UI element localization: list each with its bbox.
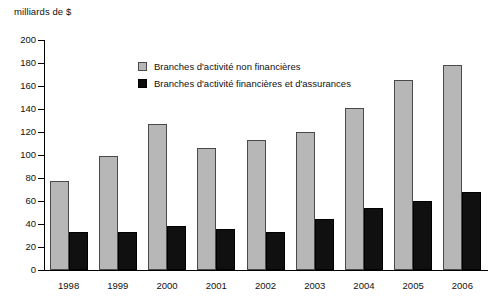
bar	[69, 232, 88, 270]
bar	[315, 219, 334, 270]
legend-item: Branches d'activité financières et d'ass…	[138, 75, 351, 92]
x-axis-tick-label: 1999	[93, 281, 142, 291]
y-axis-tick-label: 40	[2, 219, 36, 229]
bar	[394, 80, 413, 270]
bar	[266, 232, 285, 270]
legend-item-label: Branches d'activité financières et d'ass…	[154, 79, 351, 89]
bar	[345, 108, 364, 270]
bar	[216, 229, 235, 270]
y-axis-tick-label: 20	[2, 242, 36, 252]
y-axis-tick-label: 80	[2, 173, 36, 183]
y-axis-tick-label: 0	[2, 265, 36, 275]
bar	[99, 156, 118, 270]
y-axis-tick-label: 140	[2, 104, 36, 114]
x-axis-tick-label: 2006	[438, 281, 487, 291]
bar	[413, 201, 432, 270]
y-axis-tick-label: 200	[2, 35, 36, 45]
bar-chart: milliards de $ 2001801601401201008060402…	[0, 0, 494, 308]
bar	[167, 226, 186, 270]
bar	[364, 208, 383, 270]
bar	[50, 181, 69, 270]
bar	[118, 232, 137, 270]
x-axis-tick-label: 1998	[44, 281, 93, 291]
x-axis-tick-label: 2002	[241, 281, 290, 291]
bar	[247, 140, 266, 270]
x-axis-tick-label: 2003	[290, 281, 339, 291]
x-axis-line	[44, 270, 488, 271]
y-axis-tick-label: 160	[2, 81, 36, 91]
bar	[148, 124, 167, 270]
bar	[462, 192, 481, 270]
legend-swatch-icon	[138, 79, 147, 88]
y-axis-tick-label: 100	[2, 150, 36, 160]
legend-item: Branches d'activité non financières	[138, 58, 351, 75]
x-axis-tick-label: 2001	[192, 281, 241, 291]
legend-swatch-icon	[138, 62, 147, 71]
y-axis-tick-label: 60	[2, 196, 36, 206]
legend-item-label: Branches d'activité non financières	[154, 62, 301, 72]
x-axis-tick-label: 2004	[339, 281, 388, 291]
x-axis-tick-label: 2000	[142, 281, 191, 291]
x-axis-tick-label: 2005	[389, 281, 438, 291]
chart-legend: Branches d'activité non financièresBranc…	[138, 58, 351, 92]
y-axis-tick-label: 180	[2, 58, 36, 68]
bar	[296, 132, 315, 270]
y-axis-tick-labels: 200180160140120100806040200	[0, 0, 36, 308]
y-axis-tick-label: 120	[2, 127, 36, 137]
bar	[443, 65, 462, 270]
bar	[197, 148, 216, 270]
